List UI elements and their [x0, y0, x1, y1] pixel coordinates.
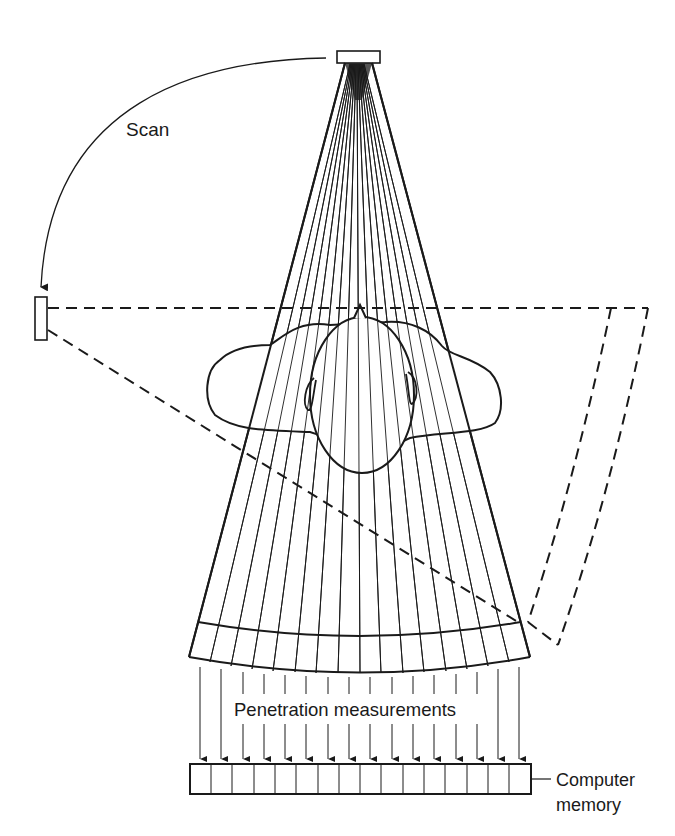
- penetration-measurements-label: Penetration measurements: [234, 699, 456, 720]
- computer-memory-label-line2: memory: [556, 795, 621, 815]
- scan-label: Scan: [126, 119, 169, 140]
- scan-arc-arrow: [41, 58, 326, 287]
- xray-source: [337, 51, 380, 63]
- ct-scan-diagram: Scan: [0, 0, 675, 836]
- computer-memory-label-line1: Computer: [556, 770, 635, 790]
- detector-start-position: [35, 297, 47, 340]
- computer-memory: [190, 764, 551, 794]
